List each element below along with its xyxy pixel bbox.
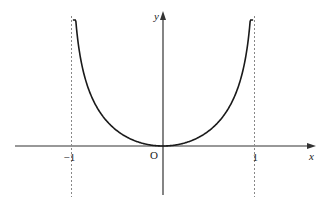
y-axis-arrow-icon	[160, 11, 166, 20]
x-tick-label-1: 1	[253, 151, 259, 163]
origin-label: O	[150, 149, 158, 161]
y-axis-label: y	[153, 10, 159, 22]
x-tick-label-0: −1	[64, 151, 76, 163]
x-axis-arrow-icon	[307, 143, 316, 149]
function-graph: x y O −11	[0, 0, 323, 204]
x-axis-label: x	[308, 150, 314, 162]
